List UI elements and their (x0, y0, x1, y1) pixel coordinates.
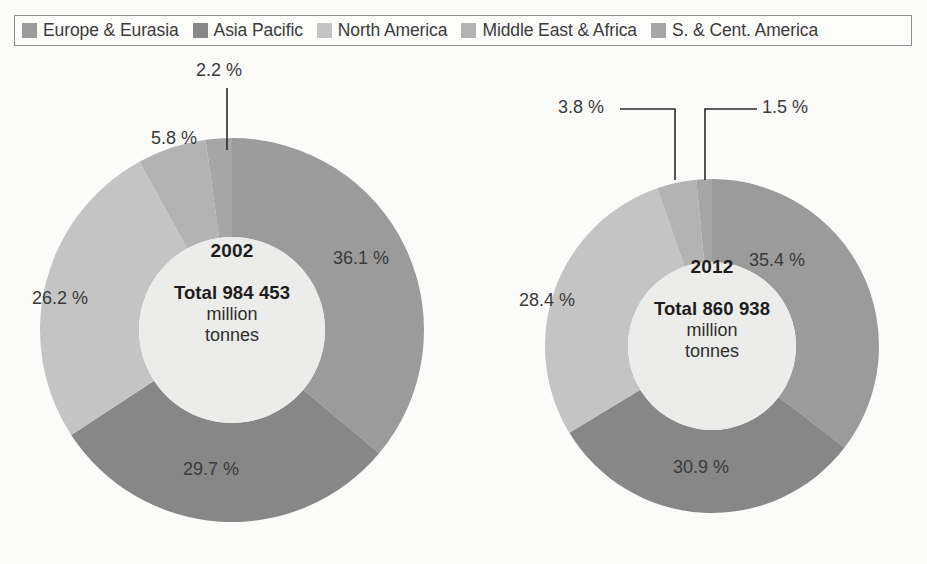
donut-center-year-2012: 2012 (592, 256, 832, 278)
pct-label-2012-north-america: 28.4 % (519, 290, 575, 311)
pct-label-2002-s-cent-america: 2.2 % (196, 60, 242, 81)
pct-label-2002-asia-pacific: 29.7 % (183, 459, 239, 480)
donut-center-unit-line1-2002: million (112, 304, 352, 325)
donut-chart-2002: 2.2 % 5.8 % 36.1 % 26.2 % 29.7 % 2002 To… (0, 0, 470, 564)
pct-label-2012-asia-pacific: 30.9 % (673, 457, 729, 478)
donut-center-unit-line1-2012: million (592, 320, 832, 341)
donut-chart-2012: 3.8 % 1.5 % 35.4 % 28.4 % 30.9 % 2012 To… (470, 0, 927, 564)
donut-center-unit-line2-2012: tonnes (592, 341, 832, 362)
pct-label-2002-middle-east-africa: 5.8 % (151, 128, 197, 149)
chart-page: Europe & Eurasia Asia Pacific North Amer… (0, 0, 927, 564)
leader-line-2012-s-cent-america (699, 104, 761, 182)
donut-center-2012: 2012 Total 860 938 million tonnes (592, 256, 832, 362)
pct-label-2002-north-america: 26.2 % (32, 288, 88, 309)
donut-center-total-2012: Total 860 938 (592, 298, 832, 320)
donut-center-2002: 2002 Total 984 453 million tonnes (112, 240, 352, 346)
donut-center-total-2002: Total 984 453 (112, 282, 352, 304)
leader-line-2012-middle-east-africa (620, 104, 682, 182)
pct-label-2012-s-cent-america: 1.5 % (762, 97, 808, 118)
donut-center-unit-line2-2002: tonnes (112, 325, 352, 346)
donut-center-year-2002: 2002 (112, 240, 352, 262)
pct-label-2012-middle-east-africa: 3.8 % (558, 97, 604, 118)
leader-line-2002-s-cent-america (220, 88, 234, 150)
